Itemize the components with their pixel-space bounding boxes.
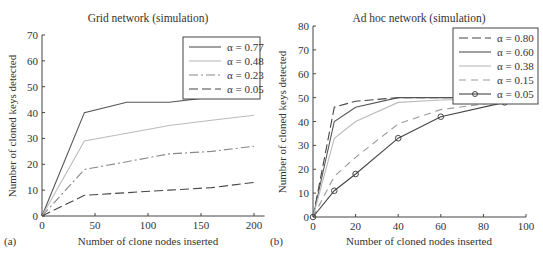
y-tick-label: 20	[298, 163, 310, 175]
x-tick-label: 100	[518, 220, 535, 232]
x-tick-label: 60	[435, 220, 447, 232]
x-axis-label: Number of cloned nodes inserted	[346, 235, 493, 247]
series-line	[42, 146, 254, 216]
x-axis-label: Number of clone nodes inserted	[78, 235, 219, 247]
chart-title: Ad hoc network (simulation)	[352, 12, 485, 25]
panel-label: (a)	[4, 235, 17, 248]
y-tick-label: 50	[27, 81, 39, 93]
y-axis-label: Number of cloned keys detected	[276, 50, 288, 193]
legend-label: α = 0.05	[227, 83, 264, 95]
legend-label: α = 0.05	[497, 88, 534, 100]
figure: Grid network (simulation) 01020304050607…	[0, 0, 543, 260]
y-tick-label: 40	[27, 107, 39, 119]
x-tick-label: 50	[90, 219, 102, 231]
y-tick-label: 10	[298, 187, 310, 199]
x-tick-label: 40	[393, 220, 405, 232]
y-tick-label: 0	[33, 210, 39, 222]
legend-label: α = 0.15	[497, 74, 534, 86]
x-tick-label: 150	[193, 219, 210, 231]
y-tick-label: 60	[298, 68, 310, 80]
plot-area	[42, 97, 254, 216]
chart-adhoc-network: Ad hoc network (simulation) 010203040506…	[270, 12, 538, 248]
y-axis-label: Number of cloned keys detected	[6, 54, 18, 197]
y-tick-label: 30	[27, 132, 39, 144]
plot-area	[310, 98, 507, 220]
legend-label: α = 0.23	[227, 69, 264, 81]
x-tick-label: 0	[310, 220, 316, 232]
y-tick-label: 20	[27, 158, 39, 170]
legend-label: α = 0.77	[227, 41, 264, 53]
legend-label: α = 0.60	[497, 46, 534, 58]
y-tick-label: 10	[27, 184, 39, 196]
y-tick-label: 60	[27, 55, 39, 67]
y-tick-label: 30	[298, 139, 310, 151]
legend-label: α = 0.80	[497, 32, 534, 44]
y-tick-label: 70	[27, 29, 39, 41]
y-tick-label: 50	[298, 92, 310, 104]
chart-title: Grid network (simulation)	[88, 12, 209, 25]
x-tick-label: 100	[140, 219, 157, 231]
legend-label: α = 0.48	[227, 55, 264, 67]
legend: α = 0.77α = 0.48α = 0.23α = 0.05	[183, 37, 264, 99]
panel-label: (b)	[270, 235, 283, 248]
x-tick-label: 200	[246, 219, 263, 231]
series-line	[42, 182, 254, 216]
x-tick-label: 80	[478, 220, 490, 232]
legend: α = 0.80α = 0.60α = 0.38α = 0.15α = 0.05	[453, 28, 538, 104]
series-line	[42, 115, 254, 216]
y-tick-label: 80	[298, 20, 310, 32]
x-tick-label: 0	[39, 219, 45, 231]
y-tick-label: 0	[304, 211, 310, 223]
series-line	[313, 98, 505, 217]
y-tick-label: 70	[298, 44, 310, 56]
series-line	[42, 97, 254, 216]
series-line	[313, 101, 505, 217]
chart-grid-network: Grid network (simulation) 01020304050607…	[4, 12, 265, 248]
series-line	[313, 98, 505, 217]
y-tick-label: 40	[298, 116, 310, 128]
x-tick-label: 20	[350, 220, 362, 232]
series-line	[313, 102, 505, 217]
legend-label: α = 0.38	[497, 60, 534, 72]
